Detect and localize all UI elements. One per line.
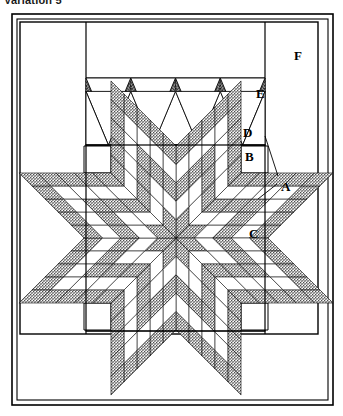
piece-label-d: D xyxy=(243,126,252,139)
corner-square-B xyxy=(84,146,111,173)
piece-label-c: C xyxy=(249,227,258,240)
piece-label-f: F xyxy=(294,49,302,62)
diagram-linework xyxy=(12,14,333,405)
corner-square-B xyxy=(84,303,111,330)
corner-square-B xyxy=(241,303,268,330)
piece-label-a: A xyxy=(281,180,290,193)
quilt-diagram xyxy=(0,0,343,416)
piece-label-b: B xyxy=(245,150,254,163)
piece-label-e: E xyxy=(256,87,265,100)
